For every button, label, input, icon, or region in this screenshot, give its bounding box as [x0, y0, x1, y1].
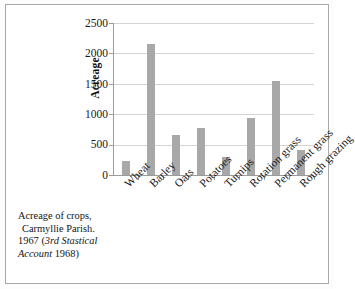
x-label-wheat: Wheat	[122, 159, 152, 189]
x-label-barley: Barley	[147, 159, 178, 190]
caption-line-1: Acreage of crops,	[18, 210, 122, 223]
caption-line-4: Account 1968)	[18, 248, 122, 261]
caption-year-close: 1968)	[52, 248, 79, 259]
caption-line-3: 1967 (3rd Stastical	[18, 235, 122, 248]
figure-caption: Acreage of crops, Carmyllie Parish. 1967…	[18, 210, 122, 260]
caption-year-open: 1967 (	[18, 235, 45, 246]
caption-source-italic-2: Account	[18, 248, 52, 259]
caption-source-italic-1: 3rd Stastical	[45, 235, 97, 246]
caption-line-2: Carmyllie Parish.	[18, 223, 122, 236]
